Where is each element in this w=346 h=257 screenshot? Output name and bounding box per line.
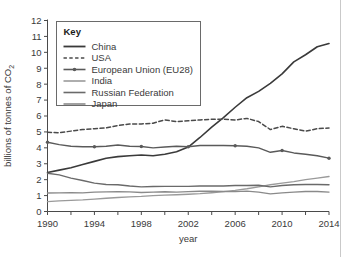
y-tick-label: 7 xyxy=(36,94,41,105)
series-marker xyxy=(233,144,236,147)
legend-label: India xyxy=(92,75,113,86)
x-axis-ticks: 1990199419982002200620102014 xyxy=(37,212,340,229)
series-line-india xyxy=(48,176,330,201)
series-marker xyxy=(46,141,49,144)
legend-label: China xyxy=(92,41,118,52)
x-tick-label: 2002 xyxy=(178,218,199,229)
legend-label: Japan xyxy=(92,98,118,109)
series-marker xyxy=(327,156,330,159)
y-tick-label: 1 xyxy=(36,190,41,201)
series-line-japan xyxy=(48,191,330,194)
legend-label: USA xyxy=(92,52,112,63)
series-line-russian-federation xyxy=(48,173,330,187)
y-tick-label: 9 xyxy=(36,63,41,74)
series-line-european-union-eu28 xyxy=(48,142,330,158)
y-axis-ticks: 0123456789101112 xyxy=(31,15,48,217)
x-tick-label: 2010 xyxy=(272,218,293,229)
series-marker xyxy=(187,145,190,148)
legend-label: Russian Federation xyxy=(92,87,174,98)
x-tick-label: 2006 xyxy=(225,218,246,229)
legend: KeyChinaUSAEuropean Union (EU28)IndiaRus… xyxy=(57,22,201,110)
y-tick-label: 10 xyxy=(31,47,42,58)
y-tick-label: 5 xyxy=(36,126,41,137)
x-tick-label: 1990 xyxy=(37,218,58,229)
legend-title: Key xyxy=(64,26,82,37)
series-marker xyxy=(280,149,283,152)
y-tick-label: 0 xyxy=(36,206,41,217)
y-tick-label: 4 xyxy=(36,142,41,153)
y-tick-label: 2 xyxy=(36,174,41,185)
y-tick-label: 8 xyxy=(36,79,41,90)
x-tick-label: 1998 xyxy=(131,218,152,229)
legend-swatch-marker xyxy=(73,68,77,72)
chart-root: 0123456789101112199019941998200220062010… xyxy=(0,0,346,257)
x-axis-title: year xyxy=(179,233,197,244)
legend-label: European Union (EU28) xyxy=(92,64,193,75)
y-tick-label: 3 xyxy=(36,158,41,169)
y-tick-label: 11 xyxy=(32,31,42,42)
y-tick-label: 12 xyxy=(31,15,42,26)
co2-emissions-line-chart: 0123456789101112199019941998200220062010… xyxy=(0,0,346,257)
x-tick-label: 2014 xyxy=(318,218,339,229)
y-axis-title: billions of tonnes of CO2 xyxy=(2,65,15,167)
y-tick-label: 6 xyxy=(36,110,41,121)
series-marker xyxy=(93,145,96,148)
series-line-usa xyxy=(48,118,330,132)
series-marker xyxy=(140,145,143,148)
x-tick-label: 1994 xyxy=(84,218,105,229)
